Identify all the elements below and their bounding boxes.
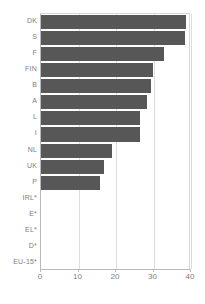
bar-I[interactable]	[41, 127, 140, 141]
x-tick-label-10: 10	[73, 272, 82, 282]
plot-area	[40, 13, 190, 270]
category-axis-labels: DKSFFINBALINLUKPIRL*E*EL*D*EU-15*	[0, 13, 37, 270]
category-label-B: B	[0, 81, 37, 89]
x-tick-label-30: 30	[148, 272, 157, 282]
bar-row	[41, 110, 189, 126]
bar-S[interactable]	[41, 31, 185, 45]
bar-row	[41, 14, 189, 30]
x-tick-mark-20	[115, 269, 116, 272]
bar-row	[41, 223, 189, 239]
bar-row	[41, 175, 189, 191]
x-tick-label-0: 0	[38, 272, 42, 282]
bar-P[interactable]	[41, 176, 100, 190]
bar-row	[41, 94, 189, 110]
x-tick-mark-0	[40, 269, 41, 272]
bar-row	[41, 159, 189, 175]
category-label-L: L	[0, 113, 37, 121]
category-label-EU-15*: EU-15*	[0, 258, 37, 266]
category-label-UK: UK	[0, 162, 37, 170]
gridline-40	[191, 14, 192, 269]
bar-row	[41, 126, 189, 142]
x-tick-mark-10	[78, 269, 79, 272]
x-tick-label-40: 40	[186, 272, 195, 282]
bar-row	[41, 191, 189, 207]
bar-B[interactable]	[41, 79, 151, 93]
bar-row	[41, 143, 189, 159]
x-axis-tick-labels: 010203040	[0, 272, 205, 286]
bar-L[interactable]	[41, 111, 140, 125]
x-tick-mark-40	[190, 269, 191, 272]
bar-DK[interactable]	[41, 15, 186, 29]
bar-F[interactable]	[41, 47, 164, 61]
category-label-P: P	[0, 178, 37, 186]
category-label-NL: NL	[0, 146, 37, 154]
bar-row	[41, 62, 189, 78]
bar-UK[interactable]	[41, 160, 104, 174]
x-tick-label-20: 20	[111, 272, 120, 282]
bar-NL[interactable]	[41, 144, 112, 158]
bar-row	[41, 207, 189, 223]
category-label-IRL*: IRL*	[0, 194, 37, 202]
category-label-FIN: FIN	[0, 65, 37, 73]
category-label-EL*: EL*	[0, 226, 37, 234]
bar-A[interactable]	[41, 95, 147, 109]
category-label-DK: DK	[0, 17, 37, 25]
category-label-E*: E*	[0, 210, 37, 218]
bar-row	[41, 46, 189, 62]
bar-row	[41, 78, 189, 94]
category-label-S: S	[0, 33, 37, 41]
bar-chart: DKSFFINBALINLUKPIRL*E*EL*D*EU-15* 010203…	[0, 0, 205, 304]
category-label-D*: D*	[0, 242, 37, 250]
bar-FIN[interactable]	[41, 63, 153, 77]
x-tick-mark-30	[153, 269, 154, 272]
category-label-F: F	[0, 49, 37, 57]
bars-layer	[41, 14, 189, 269]
bar-row	[41, 30, 189, 46]
bar-row	[41, 239, 189, 255]
category-label-I: I	[0, 129, 37, 137]
category-label-A: A	[0, 97, 37, 105]
